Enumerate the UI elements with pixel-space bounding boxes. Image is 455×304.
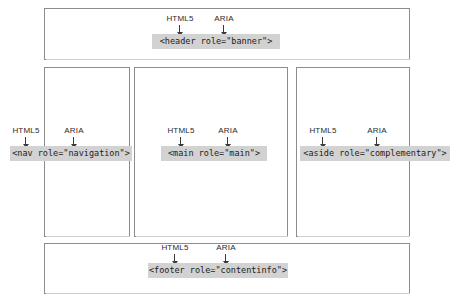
main-code-label: <main role="main"> bbox=[161, 146, 267, 161]
aside-aria-annotation-label: ARIA bbox=[361, 126, 393, 135]
footer-code-label: <footer role="contentinfo"> bbox=[148, 263, 288, 278]
aside-html5-annotation-label: HTML5 bbox=[305, 126, 341, 135]
diagram-canvas: HTML5 ARIA <header role="banner"> HTML5 … bbox=[0, 0, 455, 304]
footer-html5-annotation-label: HTML5 bbox=[157, 243, 193, 252]
aside-code-label: <aside role="complementary"> bbox=[300, 146, 450, 161]
nav-aria-annotation-label: ARIA bbox=[58, 126, 90, 135]
nav-code-label: <nav role="navigation"> bbox=[10, 146, 132, 161]
header-aria-annotation-label: ARIA bbox=[208, 14, 240, 23]
header-code-label: <header role="banner"> bbox=[152, 34, 280, 49]
footer-aria-annotation-label: ARIA bbox=[210, 243, 242, 252]
header-html5-annotation-label: HTML5 bbox=[162, 14, 198, 23]
nav-html5-annotation-label: HTML5 bbox=[8, 126, 44, 135]
main-aria-annotation-label: ARIA bbox=[212, 126, 244, 135]
main-html5-annotation-label: HTML5 bbox=[163, 126, 199, 135]
